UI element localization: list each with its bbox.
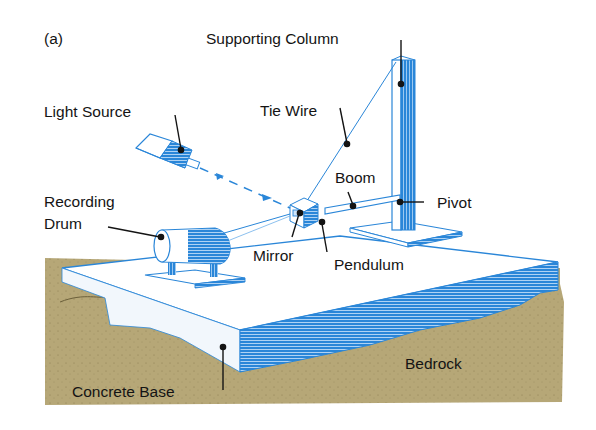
label-pivot: Pivot bbox=[437, 195, 471, 211]
label-tie-wire: Tie Wire bbox=[260, 103, 317, 119]
seismograph-diagram bbox=[0, 0, 596, 430]
label-recording: Recording bbox=[44, 194, 115, 210]
label-drum: Drum bbox=[44, 216, 82, 232]
label-concrete-base: Concrete Base bbox=[72, 384, 175, 400]
label-boom: Boom bbox=[335, 170, 376, 186]
panel-label: (a) bbox=[44, 31, 63, 47]
label-mirror: Mirror bbox=[253, 248, 293, 264]
label-supporting-column: Supporting Column bbox=[206, 31, 339, 47]
label-light-source: Light Source bbox=[44, 104, 131, 120]
boom bbox=[325, 195, 400, 214]
label-bedrock: Bedrock bbox=[405, 356, 462, 372]
label-pendulum: Pendulum bbox=[334, 257, 404, 273]
light-source bbox=[136, 134, 200, 169]
